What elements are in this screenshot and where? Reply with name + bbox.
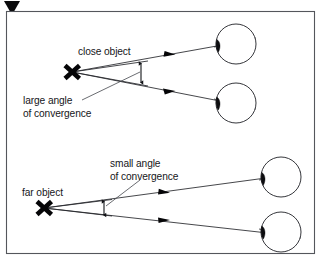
close-object-label: close object — [78, 46, 131, 57]
small-angle-label-line2: of convergence — [110, 171, 179, 182]
figure-canvas: close object large angle of convergence — [0, 0, 327, 263]
far-object-label: far object — [22, 187, 63, 198]
large-angle-label-line1: large angle — [23, 95, 73, 106]
small-angle-label-line1: small angle — [110, 158, 161, 169]
convergence-diagram-figure: close object large angle of convergence — [0, 0, 327, 263]
large-angle-label-line2: of convergence — [23, 108, 92, 119]
